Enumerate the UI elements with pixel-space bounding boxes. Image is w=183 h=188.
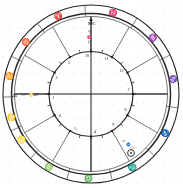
ascendant-degree-text: 17° ♋ 48' xyxy=(22,92,39,97)
ascendant-marker: As 17° ♋ 48' xyxy=(12,92,39,98)
house-number-2: 2 xyxy=(55,75,57,80)
zodiac-glyph-leo: ♌ xyxy=(15,134,27,146)
house-number-3: 3 xyxy=(68,60,70,65)
house-number-9: 9 xyxy=(112,122,114,127)
sun-degree-text: 4° ♐ 21' xyxy=(121,138,136,151)
chart-wheel-svg: ♈♓♒♑♐♏♎♍♌♋♊♉ 101112123456789 As 17° ♋ 48… xyxy=(0,0,183,188)
house-number-11: 11 xyxy=(104,56,108,61)
house-number-6: 6 xyxy=(59,113,61,118)
house-number-10: 10 xyxy=(85,53,89,58)
sun-icon-center-dot xyxy=(130,152,132,154)
ascendant-label: As xyxy=(12,93,17,98)
zodiac-glyph-gemini: ♊ xyxy=(4,71,15,82)
midheaven-dot xyxy=(90,19,93,22)
zodiac-glyph-aries: ♈ xyxy=(53,10,65,22)
sun-planet-marker: 4° ♐ 21' xyxy=(121,138,136,157)
midheaven-marker: MC 9° ♓ 52' xyxy=(87,19,96,45)
zodiac-glyph-taurus: ♉ xyxy=(19,36,32,49)
house-number-7: 7 xyxy=(128,87,130,92)
zodiac-glyph-libra: ♎ xyxy=(83,174,92,183)
house-number-1: 1 xyxy=(52,95,54,100)
midheaven-degree-text: 9° ♓ 52' xyxy=(87,30,92,45)
zodiac-glyph-aquarius: ♒ xyxy=(147,31,160,44)
house-number-5: 5 xyxy=(75,126,77,131)
house-number-8: 8 xyxy=(124,107,126,112)
zodiac-glyph-capricorn: ♑ xyxy=(168,74,178,84)
zodiac-glyph-scorpio: ♏ xyxy=(127,161,139,173)
midheaven-label: MC xyxy=(88,21,96,26)
zodiac-glyph-virgo: ♍ xyxy=(43,161,55,173)
house-number-12: 12 xyxy=(119,68,123,73)
astrology-chart-wheel: ♈♓♒♑♐♏♎♍♌♋♊♉ 101112123456789 As 17° ♋ 48… xyxy=(0,0,183,188)
zodiac-glyph-sagittarius: ♐ xyxy=(158,128,170,140)
